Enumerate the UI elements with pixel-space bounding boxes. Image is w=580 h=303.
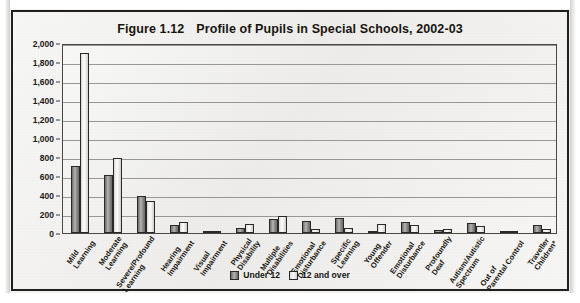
bar-under12 [533,225,542,233]
legend-item: 12 and over [289,270,350,280]
bar-under12 [434,230,443,233]
bar-over12 [245,224,254,233]
bar-under12 [104,175,113,233]
y-axis-tick-mark [56,215,60,216]
figure-scan-frame: Figure 1.12Profile of Pupils in Special … [0,0,580,303]
y-axis-tick-mark [56,120,60,121]
y-axis-tick-mark [56,101,60,102]
bar-group [401,45,419,233]
y-axis-tick-mark [56,44,60,45]
bar-group [335,45,353,233]
bar-under12 [302,221,311,233]
y-axis-tick-mark [56,82,60,83]
bar-under12 [335,218,344,233]
bar-over12 [311,229,320,233]
bar-group [368,45,386,233]
y-axis-tick-mark [56,196,60,197]
bar-over12 [212,231,221,233]
y-axis-tick-label: 1,400 [33,96,54,106]
bar-over12 [377,224,386,234]
y-axis-tick-mark [56,63,60,64]
bar-over12 [344,228,353,233]
bar-over12 [443,229,452,233]
bar-under12 [170,225,179,233]
bar-under12 [368,231,377,233]
legend-label: 12 and over [302,270,350,280]
bar-group [434,45,452,233]
bar-group [500,45,518,233]
x-axis-category-labels: MildLearningModerateLearningSevere/Profo… [62,235,557,293]
bar-under12 [467,223,476,233]
x-axis-category-label: SpecificLearning [329,235,361,271]
bar-over12 [476,226,485,233]
y-axis-tick-label: 1,000 [33,134,54,144]
figure-number: Figure 1.12 [117,22,184,36]
y-axis-tick-label: 2,000 [33,39,54,49]
bar-group [104,45,122,233]
bar-over12 [410,225,419,233]
y-axis-tick-label: 0 [49,229,54,239]
bar-over12 [179,222,188,233]
y-axis-tick-label: 1,600 [33,77,54,87]
bar-group [236,45,254,233]
bar-under12 [500,231,509,233]
bars-layer [63,45,556,233]
bar-under12 [236,228,245,233]
bar-under12 [269,219,278,233]
bar-group [71,45,89,233]
bar-group [302,45,320,233]
chart-legend: Under 1212 and over [13,270,567,280]
bar-under12 [401,222,410,233]
bar-group [269,45,287,233]
bar-under12 [203,231,212,233]
bar-over12 [146,201,155,233]
y-axis-tick-label: 1,800 [33,58,54,68]
page-edge-bottom [0,293,580,303]
x-axis-category-label: YoungOffender [362,235,394,271]
y-axis-tick-label: 400 [40,191,54,201]
page-edge-right [570,0,580,303]
bar-over12 [509,231,518,233]
legend-swatch [289,271,298,280]
bar-over12 [278,216,287,233]
y-axis-tick-mark [56,139,60,140]
x-axis-category-label: MildLearning [65,235,97,271]
bar-group [203,45,221,233]
y-axis-tick-mark [56,177,60,178]
bar-under12 [71,166,80,233]
bar-group [170,45,188,233]
figure-title: Figure 1.12Profile of Pupils in Special … [13,22,567,36]
legend-label: Under 12 [243,270,280,280]
bar-group [467,45,485,233]
y-axis-tick-label: 600 [40,172,54,182]
bar-over12 [542,229,551,233]
bar-under12 [137,196,146,233]
y-axis-tick-label: 200 [40,210,54,220]
bar-over12 [80,53,89,233]
figure-box: Figure 1.12Profile of Pupils in Special … [11,10,569,291]
page-edge-top [0,0,580,9]
y-axis-tick-label: 800 [40,153,54,163]
bar-over12 [113,158,122,233]
bar-group [137,45,155,233]
y-axis: 02004006008001,0001,2001,4001,6001,8002,… [13,44,60,234]
plot-area [62,44,557,234]
y-axis-tick-label: 1,200 [33,115,54,125]
x-axis-category-label: TravellerChildren* [526,235,559,272]
y-axis-tick-mark [56,158,60,159]
figure-title-text: Profile of Pupils in Special Schools, 20… [196,22,462,36]
bar-group [533,45,551,233]
legend-swatch [230,271,239,280]
y-axis-tick-mark [56,234,60,235]
page-edge-left [0,0,10,303]
legend-item: Under 12 [230,270,280,280]
